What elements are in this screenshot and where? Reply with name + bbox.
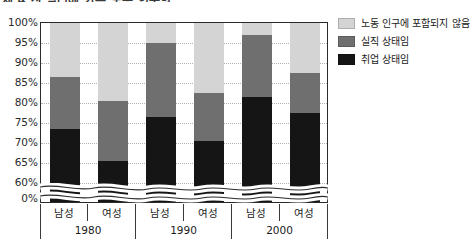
legend-item-2: 취업 상태임 [338, 54, 460, 65]
bar-segment-nilf [194, 23, 224, 93]
x-axis-group-1980: 1980 [40, 221, 136, 239]
legend-swatch-icon [338, 36, 355, 47]
plot-inner [41, 23, 327, 202]
bar-2000-여성 [290, 23, 320, 202]
gridline-90 [41, 63, 327, 64]
bar-segment-nilf [290, 23, 320, 73]
x-axis-group-1990: 1990 [136, 221, 232, 239]
y-axis-label-85: 85% [2, 77, 38, 87]
bar-segment-emp [146, 117, 176, 202]
bar-segment-emp [98, 161, 128, 202]
x-axis-group-2000: 2000 [232, 221, 328, 239]
legend-swatch-icon [338, 18, 355, 29]
x-axis-category-2: 남성 [136, 204, 184, 221]
y-axis-label-65: 65% [2, 157, 38, 167]
bar-1980-여성 [98, 23, 128, 202]
bar-segment-emp [242, 97, 272, 202]
y-axis-label-75: 75% [2, 117, 38, 127]
legend-label: 실직 상태임 [361, 36, 409, 47]
gridline-70 [41, 143, 327, 144]
x-axis-category-4: 남성 [232, 204, 280, 221]
bar-1980-남성 [50, 23, 80, 202]
bar-2000-남성 [242, 23, 272, 202]
chart-legend: 노동 인구에 포함되지 않음실직 상태임취업 상태임 [338, 18, 460, 72]
bar-segment-nilf [146, 23, 176, 43]
y-axis: 100%95%90%85%80%75%70%65%60%0% [0, 0, 38, 243]
gridline-95 [41, 43, 327, 44]
x-axis-group-row: 198019902000 [40, 221, 328, 239]
x-axis-category-0: 남성 [40, 204, 88, 221]
x-axis-category-row: 남성여성남성여성남성여성 [40, 204, 328, 221]
y-axis-label-70: 70% [2, 137, 38, 147]
gridline-85 [41, 83, 327, 84]
y-axis-label-90: 90% [2, 57, 38, 67]
bar-segment-nilf [242, 23, 272, 35]
y-axis-label-100: 100% [2, 17, 38, 27]
bar-segment-unemp [194, 93, 224, 141]
bar-1990-여성 [194, 23, 224, 202]
legend-swatch-icon [338, 54, 355, 65]
bar-segment-unemp [290, 73, 320, 113]
legend-label: 취업 상태임 [361, 54, 409, 65]
plot-area [40, 22, 328, 203]
y-axis-label-80: 80% [2, 97, 38, 107]
legend-label: 노동 인구에 포함되지 않음 [361, 18, 470, 29]
x-axis-category-1: 여성 [88, 204, 136, 221]
bar-segment-unemp [146, 43, 176, 117]
bar-segment-nilf [50, 23, 80, 77]
bar-segment-emp [194, 141, 224, 202]
gridline-80 [41, 103, 327, 104]
x-axis-category-5: 여성 [280, 204, 328, 221]
bar-segment-unemp [242, 35, 272, 97]
bar-segment-nilf [98, 23, 128, 101]
bar-1990-남성 [146, 23, 176, 202]
bar-segment-emp [290, 113, 320, 202]
gridline-65 [41, 163, 327, 164]
bar-segment-unemp [98, 101, 128, 161]
y-axis-label-60: 60% [2, 177, 38, 187]
bar-segment-emp [50, 129, 80, 202]
y-axis-label-95: 95% [2, 37, 38, 47]
y-axis-label-0: 0% [2, 193, 38, 203]
gridline-75 [41, 123, 327, 124]
legend-item-1: 실직 상태임 [338, 36, 460, 47]
legend-item-0: 노동 인구에 포함되지 않음 [338, 18, 460, 29]
bar-segment-unemp [50, 77, 80, 129]
gridline-60 [41, 183, 327, 184]
x-axis-category-3: 여성 [184, 204, 232, 221]
